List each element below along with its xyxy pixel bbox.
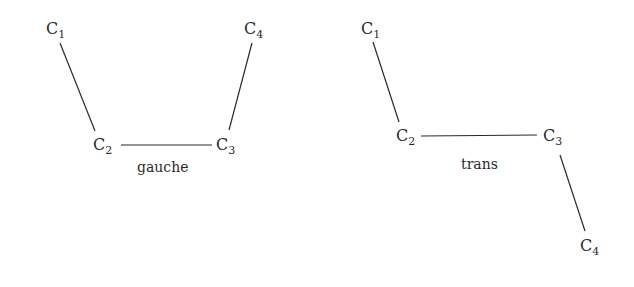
- gauche-bond-c3-c4: [229, 43, 252, 130]
- trans-atom-c3: C3: [543, 128, 562, 147]
- trans-bond-c2-c3: [421, 135, 537, 136]
- gauche-atom-c2: C2: [93, 137, 112, 156]
- gauche-atom-c1: C1: [46, 21, 65, 40]
- trans-bond-c3-c4: [560, 155, 585, 231]
- trans-bond-c1-c2: [373, 42, 399, 122]
- gauche-atom-c3: C3: [216, 137, 235, 156]
- gauche-atom-c4: C4: [244, 21, 263, 40]
- trans-atom-c4: C4: [580, 238, 599, 257]
- trans-caption: trans: [461, 157, 498, 171]
- trans-atom-c1: C1: [361, 21, 380, 40]
- gauche-bond-c1-c2: [60, 43, 95, 131]
- trans-atom-c2: C2: [396, 128, 415, 147]
- gauche-caption: gauche: [137, 160, 188, 174]
